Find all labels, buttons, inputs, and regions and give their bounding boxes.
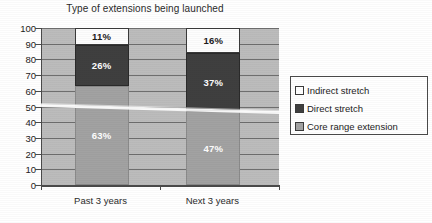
legend-swatch-icon <box>295 104 304 113</box>
legend-swatch-icon <box>295 86 304 95</box>
legend-item[interactable]: Indirect stretch <box>295 81 423 99</box>
y-axis-tick-mark <box>35 138 41 139</box>
x-axis-tick-mark <box>279 185 280 190</box>
x-axis-category-label: Past 3 years <box>74 195 127 206</box>
x-axis-tick-mark <box>41 185 42 190</box>
y-axis-tick-label: 10 <box>8 164 36 175</box>
y-axis: 1009080706050403020100 <box>0 0 36 223</box>
y-axis-tick-label: 60 <box>8 85 36 96</box>
bar-segment[interactable]: 37% <box>186 53 240 111</box>
y-axis-tick-mark <box>35 154 41 155</box>
y-axis-tick-mark <box>35 91 41 92</box>
bar-segment-label: 26% <box>92 60 112 71</box>
stacked-bar[interactable]: 47%37%16% <box>186 28 240 185</box>
plot-area: 63%26%11%47%37%16% <box>41 28 279 185</box>
bar-segment[interactable]: 26% <box>75 45 129 86</box>
bar-segment[interactable]: 11% <box>75 28 129 45</box>
y-axis-tick-mark <box>35 28 41 29</box>
bar-segment-label: 16% <box>204 35 224 46</box>
chart-legend: Indirect stretchDirect stretchCore range… <box>290 76 428 135</box>
legend-item-label: Core range extension <box>307 121 398 132</box>
y-axis-tick-mark <box>35 59 41 60</box>
y-axis-tick-mark <box>35 107 41 108</box>
chart-figure: Type of extensions being launched 100908… <box>0 0 432 223</box>
y-axis-tick-label: 30 <box>8 132 36 143</box>
legend-item[interactable]: Direct stretch <box>295 99 423 117</box>
bar-segment-label: 37% <box>204 77 224 88</box>
legend-item[interactable]: Core range extension <box>295 117 423 135</box>
x-axis-category-label: Next 3 years <box>186 195 239 206</box>
bar-segment-label: 11% <box>92 31 111 42</box>
x-axis-tick-mark <box>160 185 161 190</box>
bar-segment[interactable]: 16% <box>186 28 240 53</box>
y-axis-tick-mark <box>35 122 41 123</box>
chart-title: Type of extensions being launched <box>0 3 290 14</box>
bar-segment-label: 47% <box>204 143 224 154</box>
y-axis-tick-mark <box>35 185 41 186</box>
stacked-bar[interactable]: 63%26%11% <box>75 28 129 185</box>
legend-item-label: Indirect stretch <box>307 85 369 96</box>
y-axis-tick-label: 70 <box>8 70 36 81</box>
y-axis-tick-mark <box>35 169 41 170</box>
bar-segment[interactable]: 63% <box>75 86 129 185</box>
y-axis-tick-label: 80 <box>8 54 36 65</box>
y-axis-tick-mark <box>35 75 41 76</box>
y-axis-tick-label: 40 <box>8 117 36 128</box>
y-axis-tick-label: 100 <box>8 23 36 34</box>
y-axis-tick-label: 50 <box>8 101 36 112</box>
y-axis-tick-label: 90 <box>8 38 36 49</box>
y-axis-tick-mark <box>35 44 41 45</box>
y-axis-tick-label: 0 <box>8 180 36 191</box>
bar-segment[interactable]: 47% <box>186 111 240 185</box>
legend-item-label: Direct stretch <box>307 103 363 114</box>
legend-swatch-icon <box>295 122 304 131</box>
y-axis-tick-label: 20 <box>8 148 36 159</box>
bar-segment-label: 63% <box>92 130 112 141</box>
